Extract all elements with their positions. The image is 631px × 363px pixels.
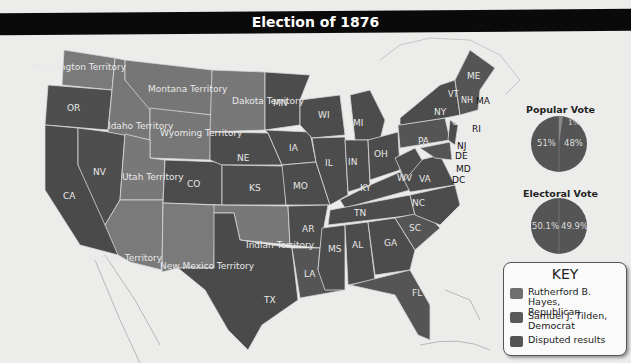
key-label-republican-1: Rutherford B. Hayes,: [528, 286, 591, 307]
label-in: IN: [348, 157, 357, 167]
label-pa: PA: [418, 136, 429, 146]
label-wi: WI: [318, 110, 330, 120]
label-or: OR: [67, 103, 80, 113]
label-me: ME: [467, 71, 480, 81]
label-dakota: Dakota Territory: [232, 96, 304, 106]
label-mi: MI: [353, 118, 363, 128]
label-wyoming: Wyoming Territory: [160, 128, 242, 138]
label-md: MD: [456, 164, 471, 174]
label-ms: MS: [328, 244, 341, 254]
label-mo: MO: [293, 181, 308, 191]
label-wv: WV: [397, 173, 412, 183]
label-ia: IA: [289, 143, 298, 153]
popular-vote-tilden: 51%: [537, 138, 556, 148]
map-title: Election of 1876: [0, 12, 631, 32]
label-ga: GA: [384, 238, 397, 248]
label-ks: KS: [249, 183, 261, 193]
state-newyork: [400, 80, 460, 125]
label-al: AL: [352, 240, 363, 250]
swatch-democrat: [510, 312, 523, 323]
label-ri: RI: [472, 124, 481, 134]
label-new-mexico: New Mexico Territory: [160, 261, 254, 271]
label-arizona: Arizona Territory: [88, 253, 162, 263]
key-label-democrat-2: Democrat: [528, 320, 575, 331]
label-indian: Indian Territory: [246, 240, 314, 250]
label-ca: CA: [63, 191, 75, 201]
swatch-republican: [510, 288, 523, 299]
label-dc: DC: [452, 175, 465, 185]
label-nj: NJ: [457, 141, 466, 151]
label-montana: Montana Territory: [148, 84, 227, 94]
swatch-disputed: [510, 336, 523, 347]
popular-vote-other: 1%: [568, 118, 580, 127]
label-tx: TX: [264, 295, 276, 305]
label-tn: TN: [354, 208, 366, 218]
electoral-vote-title: Electoral Vote: [523, 188, 598, 199]
label-fl: FL: [412, 288, 422, 298]
label-ar: AR: [302, 224, 314, 234]
label-nh: NH: [461, 96, 473, 106]
label-il: IL: [325, 158, 333, 168]
label-utah: Utah Territory: [122, 172, 184, 182]
key-label-disputed: Disputed results: [528, 334, 605, 345]
label-ne: NE: [237, 153, 249, 163]
electoral-vote-tilden: 50.1%: [532, 221, 559, 231]
electoral-vote-hayes: 49.9%: [561, 221, 588, 231]
key-item-disputed: Disputed results: [510, 335, 605, 347]
state-mississippi: [318, 225, 345, 290]
label-ky: KY: [360, 183, 371, 193]
label-mn: MN: [273, 98, 288, 108]
label-vt: VT: [448, 90, 458, 100]
popular-vote-hayes: 48%: [564, 138, 583, 148]
label-ct: CT: [452, 118, 462, 128]
label-la: LA: [304, 269, 315, 279]
label-nc: NC: [412, 198, 425, 208]
label-co: CO: [187, 179, 200, 189]
label-washington: Washington Territory: [33, 62, 126, 72]
popular-vote-title: Popular Vote: [526, 104, 595, 115]
key-title: KEY: [504, 266, 626, 282]
label-oh: OH: [374, 149, 388, 159]
label-sc: SC: [409, 223, 421, 233]
state-michigan: [350, 90, 385, 140]
label-nv: NV: [93, 167, 106, 177]
label-de: DE: [455, 151, 468, 161]
map-key: KEY Rutherford B. Hayes,Republican Samue…: [503, 262, 627, 356]
label-ny: NY: [434, 107, 446, 117]
key-item-democrat: Samuel J. Tilden,Democrat: [510, 311, 607, 331]
label-va: VA: [419, 174, 431, 184]
label-ma: MA: [476, 96, 490, 106]
